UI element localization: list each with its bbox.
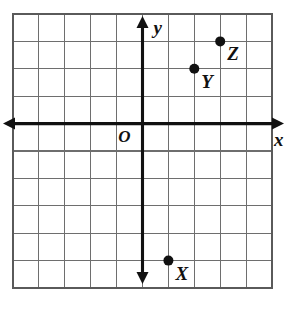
- data-point-x[interactable]: [163, 256, 173, 266]
- axes-group: [3, 16, 284, 284]
- y-axis-arrow-down: [137, 272, 149, 284]
- point-label-y: Y: [201, 71, 215, 92]
- y-axis-label: y: [152, 17, 163, 38]
- coordinate-plane-svg: XYZOyx: [0, 0, 290, 310]
- data-point-z[interactable]: [215, 36, 225, 46]
- x-axis-label: x: [273, 129, 284, 150]
- y-axis-arrow-up: [137, 16, 149, 28]
- origin-label: O: [118, 127, 130, 146]
- data-point-y[interactable]: [189, 64, 199, 74]
- point-label-z: Z: [226, 43, 239, 64]
- coordinate-plane-figure: XYZOyx: [0, 0, 290, 310]
- x-axis-arrow-left: [3, 118, 15, 130]
- point-label-x: X: [174, 263, 189, 284]
